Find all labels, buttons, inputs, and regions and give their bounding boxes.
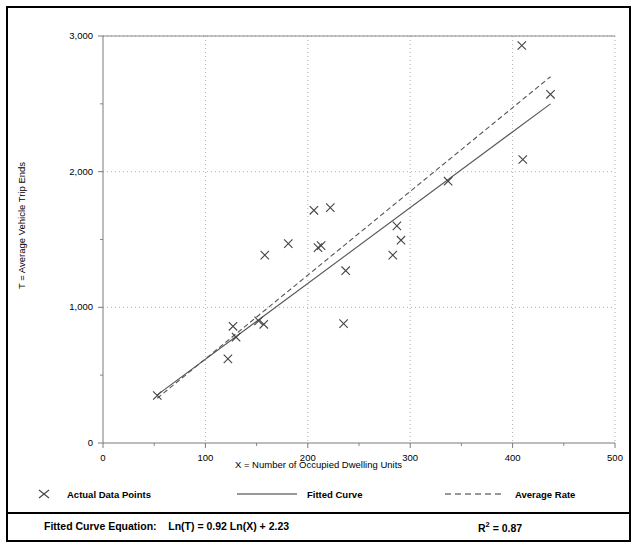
x-axis-tick-label: 200 bbox=[288, 452, 328, 463]
y-axis-tick-label: 3,000 bbox=[47, 30, 93, 41]
data-point-marker bbox=[224, 355, 232, 363]
chart-legend: Actual Data Points Fitted Curve Average … bbox=[8, 482, 629, 510]
y-axis-title: T = Average Vehicle Trip Ends bbox=[16, 141, 27, 311]
data-point-marker bbox=[260, 320, 268, 328]
plot-area: T = Average Vehicle Trip Ends X = Number… bbox=[8, 8, 629, 478]
data-point-marker bbox=[314, 243, 322, 251]
legend-label-fitted-curve: Fitted Curve bbox=[307, 489, 362, 500]
data-point-marker bbox=[317, 241, 325, 249]
data-point-marker bbox=[254, 317, 262, 325]
r-squared-number: = 0.87 bbox=[490, 522, 522, 534]
data-point-marker bbox=[518, 41, 526, 49]
data-point-marker bbox=[389, 251, 397, 259]
average-rate-line bbox=[157, 77, 550, 399]
legend-label-actual-data-points: Actual Data Points bbox=[67, 489, 151, 500]
chart-figure-border: T = Average Vehicle Trip Ends X = Number… bbox=[6, 6, 631, 542]
data-point-marker bbox=[232, 333, 240, 341]
x-axis-tick-label: 0 bbox=[83, 452, 123, 463]
r-squared-value: R2 = 0.87 bbox=[478, 520, 522, 534]
legend-label-average-rate: Average Rate bbox=[515, 489, 575, 500]
x-axis-tick-label: 300 bbox=[390, 452, 430, 463]
data-point-marker bbox=[229, 322, 237, 330]
equation-value: Ln(T) = 0.92 Ln(X) + 2.23 bbox=[168, 520, 289, 532]
data-point-marker bbox=[546, 90, 554, 98]
x-marker-icon bbox=[36, 487, 58, 501]
data-point-marker bbox=[326, 203, 334, 211]
legend-item-actual-data-points: Actual Data Points bbox=[36, 482, 151, 506]
legend-item-average-rate: Average Rate bbox=[444, 482, 575, 506]
dashed-line-icon bbox=[444, 487, 506, 501]
x-axis-tick-label: 100 bbox=[185, 452, 225, 463]
data-point-marker bbox=[284, 239, 292, 247]
fitted-curve-equation: Fitted Curve Equation: Ln(T) = 0.92 Ln(X… bbox=[44, 520, 289, 532]
solid-line-icon bbox=[236, 487, 298, 501]
x-axis-tick-label: 400 bbox=[493, 452, 533, 463]
legend-item-fitted-curve: Fitted Curve bbox=[236, 482, 362, 506]
data-point-marker bbox=[339, 319, 347, 327]
y-axis-tick-label: 1,000 bbox=[47, 301, 93, 312]
equation-bar: Fitted Curve Equation: Ln(T) = 0.92 Ln(X… bbox=[8, 512, 629, 540]
data-point-group bbox=[153, 41, 555, 399]
r-squared-label: R bbox=[478, 522, 486, 534]
data-point-marker bbox=[342, 267, 350, 275]
fitted-curve-line bbox=[157, 104, 550, 395]
data-point-marker bbox=[393, 222, 401, 230]
y-axis-tick-label: 2,000 bbox=[47, 166, 93, 177]
data-point-marker bbox=[261, 251, 269, 259]
x-axis-tick-label: 500 bbox=[595, 452, 635, 463]
data-point-marker bbox=[397, 236, 405, 244]
scatter-plot-svg bbox=[8, 8, 629, 478]
equation-label: Fitted Curve Equation: bbox=[44, 520, 157, 532]
data-point-marker bbox=[310, 206, 318, 214]
y-axis-tick-label: 0 bbox=[47, 437, 93, 448]
data-point-marker bbox=[519, 155, 527, 163]
